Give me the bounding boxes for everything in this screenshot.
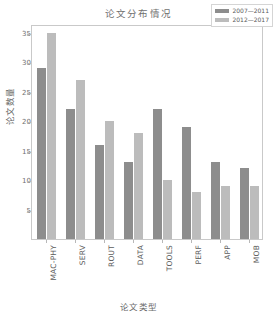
x-tick-mark [104,240,105,243]
x-tick-mark [249,240,250,243]
bar [240,168,249,239]
legend-item[interactable]: 2012—2017 [215,16,269,24]
legend-swatch [215,9,229,13]
bar [124,162,133,239]
x-tick-label: MAC-PHY [49,245,58,281]
bar-chart: 论文分布情况 5101520253035 论文数量 MAC-PHYSERVROU… [0,0,277,319]
x-tick-mark [220,240,221,243]
bar [250,186,259,239]
x-tick-label: PERF [194,245,203,265]
bar [95,145,104,239]
bar-group [37,26,56,239]
bar [105,121,114,239]
x-tick-mark [133,240,134,243]
x-tick-mark [75,240,76,243]
bar [47,33,56,239]
legend-label: 2012—2017 [232,17,269,23]
bar [163,180,172,239]
bar [211,162,220,239]
legend-label: 2007—2011 [232,8,269,14]
bar [66,109,75,239]
bar-group [153,26,172,239]
bar [153,109,162,239]
x-tick-mark [162,240,163,243]
x-axis: MAC-PHYSERVROUTDATATOOLSPERFAPPMOB [31,240,263,295]
bar [182,127,191,239]
legend-swatch [215,18,229,22]
bar [37,68,46,239]
bar-group [95,26,114,239]
y-axis-title: 论文数量 [3,68,15,144]
bar [192,192,201,239]
x-tick-mark [46,240,47,243]
x-tick-label: APP [223,245,232,260]
x-tick-mark [191,240,192,243]
bar-group [124,26,143,239]
x-tick-label: DATA [136,245,145,265]
bar [76,80,85,239]
x-tick-label: SERV [78,245,87,265]
plot-area [31,25,263,240]
bar [221,186,230,239]
bar-group [66,26,85,239]
bar-group [182,26,201,239]
legend: 2007—20112012—2017 [211,4,273,27]
x-tick-label: MOB [252,245,261,263]
x-tick-label: ROUT [107,245,116,267]
bar [134,133,143,239]
legend-item[interactable]: 2007—2011 [215,7,269,15]
x-axis-title: 论文类型 [0,300,277,312]
bar-group [240,26,259,239]
bar-group [211,26,230,239]
x-tick-label: TOOLS [165,245,174,271]
